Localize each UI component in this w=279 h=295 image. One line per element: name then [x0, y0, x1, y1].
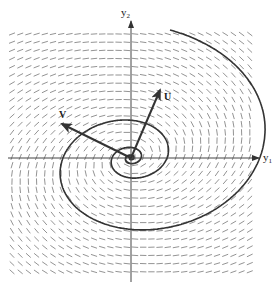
vector-u-label: U: [164, 92, 171, 102]
direction-field-diagram: [0, 0, 279, 295]
y2-axis-label: y2: [121, 7, 130, 20]
y1-axis-label: y1: [263, 152, 272, 165]
vector-v-arrow: [62, 124, 131, 158]
spiral-trajectory: [60, 30, 265, 230]
vector-v-label: V: [59, 110, 66, 120]
